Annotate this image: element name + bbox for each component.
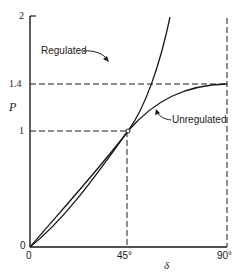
x-tick-label-45: 45°: [117, 251, 132, 261]
y-tick-label-1-4: 1.4: [9, 79, 22, 89]
regulated-label: Regulated: [41, 46, 87, 56]
chart-plot: [0, 0, 240, 275]
y-tick-label-2: 2: [19, 11, 24, 21]
y-tick-label-0: 0: [20, 241, 26, 251]
intersection-marker: [126, 129, 130, 133]
unregulated-label: Unregulated: [172, 115, 226, 125]
x-axis-label: δ: [164, 260, 169, 271]
y-axis-label: P: [9, 101, 16, 113]
y-tick-label-1: 1: [19, 126, 24, 136]
unregulated-curve: [30, 84, 227, 247]
x-tick-label-90: 90°: [217, 251, 232, 261]
regulated-arrowhead-icon: [103, 56, 109, 62]
regulated-arrow-icon: [83, 51, 107, 59]
x-tick-label-0: 0: [26, 251, 32, 261]
unregulated-arrowhead-icon: [155, 109, 160, 115]
